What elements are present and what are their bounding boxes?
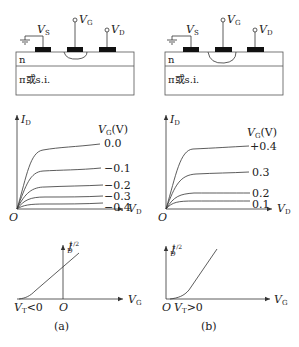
curve-b-1: [166, 172, 249, 209]
drain-contact-a: [99, 47, 116, 52]
origin-label-b: O: [158, 211, 167, 224]
y-label-transfer-a: I1/2D: [67, 240, 79, 255]
drain-terminal-icon: [253, 28, 257, 32]
transfer-curve-a: I1/2D VG O VT<0 (a): [14, 240, 142, 333]
origin-label-a: O: [9, 211, 18, 224]
source-wire-b: [172, 36, 191, 47]
curve-a-3: [17, 196, 103, 209]
curve-label-a-0: 0.0: [104, 137, 122, 150]
y-axis-label-a: ID: [20, 113, 31, 127]
gate-label-b: VG: [227, 13, 241, 27]
substrate-label-b: π或s.i.: [168, 74, 199, 85]
y-label-transfer-b: I1/2D: [170, 243, 182, 258]
x-label-transfer-a: VG: [128, 293, 142, 307]
x-label-transfer-b: VG: [274, 293, 288, 307]
ground-icon: [167, 40, 177, 44]
device-a: VS VG VD n π或s.i.: [16, 13, 134, 95]
ground-icon: [20, 40, 30, 44]
gate-terminal-icon: [221, 18, 225, 22]
gate-contact-a: [67, 47, 83, 52]
caption-a: (a): [54, 320, 69, 333]
n-layer-label-b: n: [168, 54, 175, 65]
source-label-b: VS: [186, 23, 199, 37]
source-label-a: VS: [37, 23, 50, 37]
transfer-line-a: [19, 253, 79, 299]
legend-title-b: VG(V): [247, 126, 277, 140]
output-curves-a: ID VD O VG(V) 0.0 −0.1 −0.2 −0.3 −0.4: [9, 113, 142, 224]
legend-title-a: VG(V): [98, 123, 128, 137]
source-contact-b: [183, 47, 199, 52]
curve-label-b-3: 0.1: [252, 198, 270, 211]
curve-b-3: [166, 201, 250, 209]
origin-label-transfer-b: O: [162, 301, 171, 314]
curve-a-4: [17, 203, 103, 209]
threshold-label-a: VT<0: [14, 301, 43, 315]
curve-b-0: [166, 146, 249, 209]
source-wire-a: [25, 36, 43, 47]
curve-label-a-4: −0.4: [104, 201, 131, 214]
x-axis-label-b: VD: [277, 202, 291, 216]
threshold-label-b: VT>0: [174, 301, 203, 315]
source-contact-a: [35, 47, 51, 52]
n-layer-label-a: n: [19, 54, 26, 65]
y-axis-label-b: ID: [169, 113, 180, 127]
depletion-region-b: [208, 52, 236, 63]
drain-label-b: VD: [259, 23, 273, 37]
curve-label-b-1: 0.3: [252, 166, 270, 179]
gate-label-a: VG: [79, 13, 93, 27]
substrate-label-a: π或s.i.: [19, 74, 50, 85]
curve-a-1: [17, 168, 101, 209]
drain-label-a: VD: [111, 23, 125, 37]
gate-contact-b: [215, 47, 232, 52]
mesfet-diagram: VS VG VD n π或s.i. VS VG VD n π或s.i.: [0, 0, 299, 347]
output-curves-b: ID VD O VG(V) +0.4 0.3 0.2 0.1: [158, 113, 291, 224]
drain-contact-b: [247, 47, 264, 52]
transfer-line-b: [170, 249, 217, 299]
drain-terminal-icon: [105, 28, 109, 32]
origin-label-transfer-a: O: [59, 301, 68, 314]
gate-terminal-icon: [73, 18, 77, 22]
depletion-region-a: [64, 52, 87, 59]
transfer-curve-b: I1/2D VG O VT>0 (b): [162, 243, 288, 333]
device-b: VS VG VD n π或s.i.: [165, 13, 283, 95]
curve-label-b-0: +0.4: [250, 140, 277, 153]
caption-b: (b): [201, 320, 217, 333]
curve-label-a-1: −0.1: [104, 162, 131, 175]
